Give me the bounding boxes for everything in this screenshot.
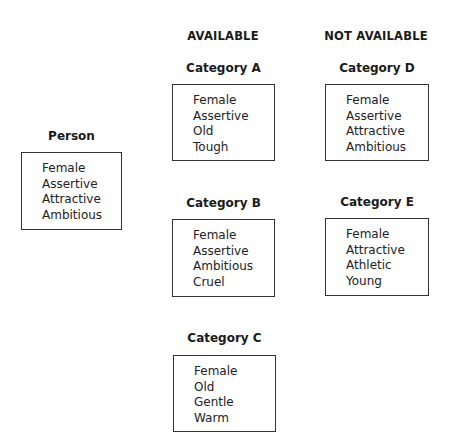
available-header: AVAILABLE (173, 29, 273, 43)
category-b-trait: Cruel (193, 275, 253, 291)
category-d-trait: Female (346, 93, 406, 109)
category-d-trait: Attractive (346, 124, 406, 140)
category-e-trait: Young (346, 274, 405, 290)
person-trait-list: Female Assertive Attractive Ambitious (42, 161, 102, 223)
category-c-label: Category C (173, 331, 276, 345)
category-c-box: Female Old Gentle Warm (173, 355, 276, 432)
category-a-box: Female Assertive Old Tough (172, 84, 275, 161)
category-a-trait: Old (193, 124, 249, 140)
category-a-trait: Female (193, 93, 249, 109)
person-trait: Female (42, 161, 102, 177)
category-b-box: Female Assertive Ambitious Cruel (172, 219, 275, 297)
person-trait: Attractive (42, 192, 102, 208)
category-e-trait: Female (346, 227, 405, 243)
category-c-trait: Old (194, 380, 237, 396)
category-b-trait: Ambitious (193, 259, 253, 275)
category-c-trait: Warm (194, 411, 237, 427)
category-c-trait: Female (194, 364, 237, 380)
category-a-trait-list: Female Assertive Old Tough (193, 93, 249, 155)
category-d-trait: Ambitious (346, 140, 406, 156)
person-trait: Ambitious (42, 208, 102, 224)
category-e-trait: Attractive (346, 243, 405, 259)
person-trait: Assertive (42, 177, 102, 193)
category-a-trait: Tough (193, 140, 249, 156)
category-c-trait: Gentle (194, 395, 237, 411)
category-d-trait: Assertive (346, 109, 406, 125)
category-e-trait: Athletic (346, 258, 405, 274)
category-e-trait-list: Female Attractive Athletic Young (346, 227, 405, 289)
category-d-trait-list: Female Assertive Attractive Ambitious (346, 93, 406, 155)
category-b-trait-list: Female Assertive Ambitious Cruel (193, 228, 253, 290)
category-a-trait: Assertive (193, 109, 249, 125)
category-e-box: Female Attractive Athletic Young (325, 218, 429, 296)
not-available-header: NOT AVAILABLE (316, 29, 436, 43)
person-box: Female Assertive Attractive Ambitious (21, 152, 122, 230)
category-d-label: Category D (325, 61, 429, 75)
category-e-label: Category E (325, 195, 429, 209)
category-c-trait-list: Female Old Gentle Warm (194, 364, 237, 426)
category-b-label: Category B (172, 196, 275, 210)
category-b-trait: Assertive (193, 244, 253, 260)
category-b-trait: Female (193, 228, 253, 244)
category-d-box: Female Assertive Attractive Ambitious (325, 84, 429, 161)
category-a-label: Category A (172, 61, 275, 75)
person-label: Person (21, 129, 122, 143)
